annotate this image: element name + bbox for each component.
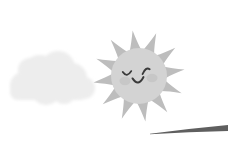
cloud-base — [10, 84, 88, 100]
right-cheek-blush — [146, 74, 157, 82]
cloud-puff — [18, 58, 42, 82]
illustration-canvas: Smiling Sun with Cloud Grayscale doodle … — [0, 0, 228, 154]
left-cheek-blush — [119, 77, 130, 85]
sun-cloud-illustration — [0, 0, 228, 154]
sun-body — [111, 48, 167, 104]
